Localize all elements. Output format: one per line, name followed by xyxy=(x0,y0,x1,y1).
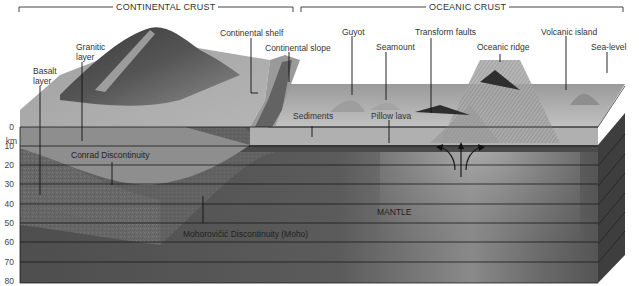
label-guyot: Guyot xyxy=(342,27,365,37)
section-brackets xyxy=(19,7,623,12)
tick-10: 10 xyxy=(0,141,14,151)
label-sea-level: Sea-level xyxy=(591,42,626,52)
tick-60: 60 xyxy=(0,237,14,247)
tick-70: 70 xyxy=(0,257,14,267)
label-continental-slope: Continental slope xyxy=(265,43,331,53)
tick-0: 0 xyxy=(0,122,14,132)
label-conrad-discontinuity: Conrad Discontinuity xyxy=(71,150,149,160)
crust-diagram: CONTINENTAL CRUST OCEANIC CRUST km 0 10 … xyxy=(0,0,639,286)
label-pillow-lava: Pillow lava xyxy=(371,111,411,121)
tick-20: 20 xyxy=(0,160,14,170)
label-mantle: MANTLE xyxy=(377,207,411,217)
label-continental-shelf: Continental shelf xyxy=(220,28,283,38)
label-basalt-layer: Basalt layer xyxy=(33,66,57,86)
tick-40: 40 xyxy=(0,199,14,209)
label-volcanic-island: Volcanic island xyxy=(541,27,597,37)
label-transform-faults: Transform faults xyxy=(415,27,476,37)
label-seamount: Seamount xyxy=(376,42,415,52)
label-granitic-layer: Granitic layer xyxy=(76,42,105,62)
label-sediments: Sediments xyxy=(293,111,333,121)
tick-30: 30 xyxy=(0,179,14,189)
continental-crust-header: CONTINENTAL CRUST xyxy=(113,2,218,12)
oceanic-crust-header: OCEANIC CRUST xyxy=(426,2,509,12)
label-moho: Mohorovičić Discontinuity (Moho) xyxy=(183,229,308,239)
tick-50: 50 xyxy=(0,218,14,228)
label-oceanic-ridge: Oceanic ridge xyxy=(477,42,529,52)
tick-80: 80 xyxy=(0,276,14,286)
